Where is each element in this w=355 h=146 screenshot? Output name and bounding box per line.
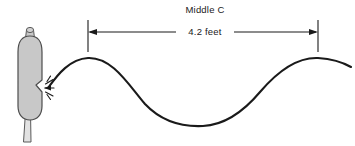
wavelength-value-label: 4.2 feet [188,26,221,37]
sound-source-knob-cap [26,27,33,32]
diagram-canvas: Middle C 4.2 feet [0,0,355,146]
wavelength-diagram: Middle C 4.2 feet [0,0,355,146]
note-name-label: Middle C [185,4,224,15]
sound-source-body [18,36,42,120]
